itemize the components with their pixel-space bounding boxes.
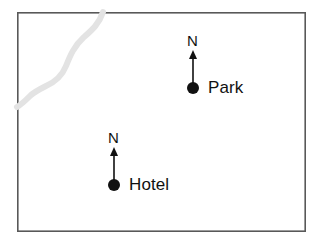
map-canvas: [0, 0, 322, 248]
hotel-north-label: N: [108, 130, 119, 145]
map-border: [18, 13, 305, 231]
park-location-dot-icon[interactable]: [187, 82, 199, 94]
park-north-label: N: [187, 33, 198, 48]
hotel-location-dot-icon[interactable]: [108, 179, 120, 191]
map-figure: N Park N Hotel: [0, 0, 322, 248]
hotel-place-label: Hotel: [129, 176, 169, 193]
park-place-label: Park: [208, 79, 243, 96]
